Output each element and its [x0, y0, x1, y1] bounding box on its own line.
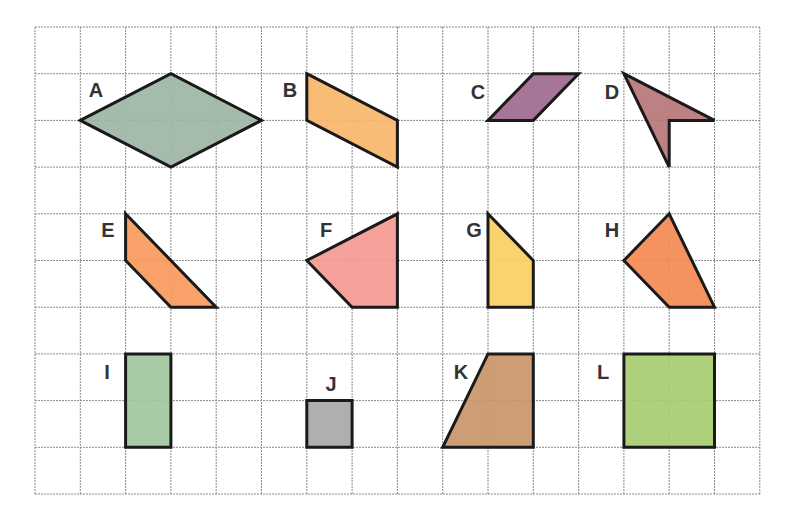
shape-label-d: D: [605, 81, 619, 103]
shape-grid-diagram: ABCDEFGHIJKL: [0, 0, 793, 519]
shape-e-trapezoid: [126, 214, 217, 307]
shape-c-parallelogram: [488, 74, 579, 121]
shape-label-f: F: [320, 219, 332, 241]
shape-label-j: J: [325, 373, 336, 395]
shape-label-k: K: [454, 361, 469, 383]
shape-l-square: [624, 354, 715, 447]
shape-label-l: L: [597, 361, 609, 383]
shape-h-quadrilateral: [624, 214, 715, 307]
shape-g-right-trapezoid: [488, 214, 533, 307]
shape-label-g: G: [466, 219, 482, 241]
shape-j-square: [307, 401, 352, 448]
shape-label-h: H: [605, 219, 619, 241]
shape-label-e: E: [101, 219, 114, 241]
shape-label-a: A: [89, 79, 103, 101]
shape-a-rhombus: [80, 74, 261, 167]
shape-label-b: B: [283, 79, 297, 101]
shape-label-i: I: [104, 361, 110, 383]
shape-label-c: C: [471, 81, 485, 103]
shape-i-rectangle: [126, 354, 171, 447]
